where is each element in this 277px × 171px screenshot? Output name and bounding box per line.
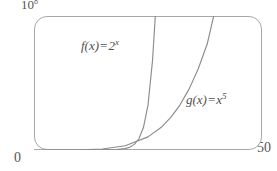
curve-label-g: g(x)=x5 — [186, 92, 227, 108]
y-axis-max-label: 108 — [21, 0, 38, 13]
y-axis-max-mantissa: 10 — [21, 0, 34, 12]
curve-label-f: f(x)=2x — [81, 38, 119, 54]
curve-label-g-operator: = — [207, 92, 216, 107]
curve-label-g-exponent: 5 — [222, 91, 227, 101]
curve-g — [34, 16, 216, 150]
curve-label-f-operator: = — [99, 38, 108, 53]
curve-label-f-exponent: x — [115, 37, 119, 47]
y-axis-max-exponent: 8 — [34, 0, 38, 6]
curve-label-g-function: g(x) — [186, 92, 207, 107]
curve-f — [34, 16, 155, 150]
plot-area — [34, 16, 262, 150]
x-axis-min-label: 0 — [14, 150, 21, 166]
curve-label-f-function: f(x) — [81, 38, 99, 53]
figure-container: ) 108 0 50 f(x)=2x g(x)=x5 — [0, 0, 277, 171]
